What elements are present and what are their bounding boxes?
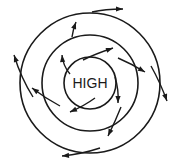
- wind-arrow-icon: [71, 21, 78, 37]
- wind-arrow-icon: [92, 6, 123, 12]
- high-pressure-label: HIGH: [73, 75, 108, 91]
- wind-arrow-icon: [31, 86, 60, 106]
- wind-arrow-icon: [12, 54, 33, 97]
- high-pressure-wind-diagram: HIGH: [0, 0, 179, 167]
- isobar-diagram: HIGH: [0, 0, 179, 167]
- wind-arrow-icon: [151, 66, 169, 102]
- wind-arrow-icon: [59, 55, 70, 74]
- wind-arrow-icon: [69, 98, 95, 114]
